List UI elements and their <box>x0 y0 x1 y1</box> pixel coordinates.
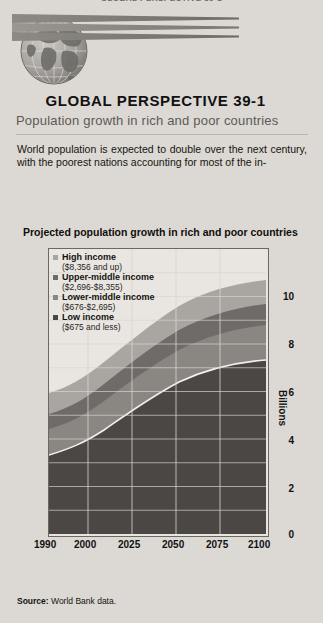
legend-item-high-income: High income ($8,356 and up) <box>53 252 203 272</box>
x-tick-2100: 2100 <box>248 539 270 550</box>
y-axis-title: Billions <box>277 390 288 426</box>
x-tick-1990: 1990 <box>34 539 56 550</box>
x-tick-2075: 2075 <box>206 539 228 550</box>
feature-body-text: World population is expected to double o… <box>17 143 307 169</box>
y-tick-10: 10 <box>272 291 294 302</box>
legend-swatch-lower-middle-income <box>53 295 58 300</box>
chart-legend: High income ($8,356 and up) Upper-middle… <box>53 252 203 332</box>
legend-label-upper-middle-income: Upper-middle income <box>62 272 203 282</box>
feature-banner <box>12 14 311 88</box>
feature-title: GLOBAL PERSPECTIVE 39-1 <box>0 92 311 109</box>
source-line: Source: World Bank data. <box>17 596 307 606</box>
legend-label-low-income: Low income <box>62 312 203 322</box>
y-tick-2: 2 <box>272 483 294 494</box>
source-label: Source: <box>17 596 49 606</box>
chart-title: Projected population growth in rich and … <box>23 226 303 238</box>
legend-label-lower-middle-income: Lower-middle income <box>62 292 203 302</box>
y-tick-8: 8 <box>272 339 294 350</box>
legend-range-low-income: ($675 and less) <box>62 322 203 332</box>
legend-item-lower-middle-income: Lower-middle income ($676-$2,695) <box>53 292 203 312</box>
legend-range-high-income: ($8,356 and up) <box>62 262 203 272</box>
running-head: GLOBAL PERSPECTIVE 39-1 <box>0 0 323 4</box>
legend-item-upper-middle-income: Upper-middle income ($2,696-$8,355) <box>53 272 203 292</box>
legend-swatch-upper-middle-income <box>53 275 58 280</box>
divider <box>16 134 308 135</box>
source-text: World Bank data. <box>49 596 116 606</box>
legend-range-upper-middle-income: ($2,696-$8,355) <box>62 282 203 292</box>
legend-swatch-low-income <box>53 315 58 320</box>
page-container: GLOBAL PERSPECTIVE 39-1 <box>0 0 323 623</box>
feature-subtitle: Population growth in rich and poor count… <box>16 113 311 128</box>
y-tick-0: 0 <box>272 529 294 540</box>
x-tick-2000: 2000 <box>74 539 96 550</box>
legend-range-lower-middle-income: ($676-$2,695) <box>62 302 203 312</box>
banner-stripe-2 <box>12 23 239 32</box>
y-tick-4: 4 <box>272 435 294 446</box>
banner-stripe-1 <box>12 14 239 23</box>
legend-swatch-high-income <box>53 255 58 260</box>
banner-stripe-3 <box>12 32 239 41</box>
x-tick-2050: 2050 <box>162 539 184 550</box>
x-tick-2025: 2025 <box>118 539 140 550</box>
legend-label-high-income: High income <box>62 252 203 262</box>
legend-item-low-income: Low income ($675 and less) <box>53 312 203 332</box>
